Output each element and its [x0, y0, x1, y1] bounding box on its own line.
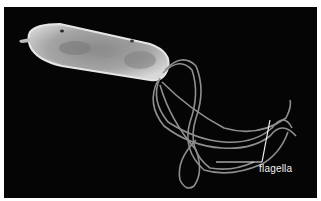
cell-body: [19, 24, 168, 80]
flagella-label: flagella: [259, 163, 292, 174]
